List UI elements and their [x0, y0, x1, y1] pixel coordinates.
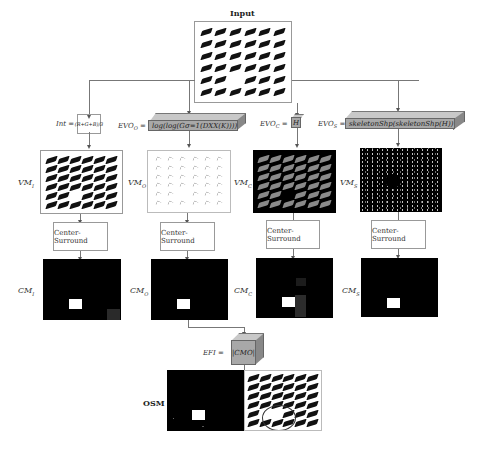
vm-i-image: [40, 150, 123, 214]
evo-c-label: EVOC =: [260, 120, 288, 129]
osm-label: OSM: [143, 398, 165, 408]
texture-element: [192, 156, 198, 162]
texture-element: [269, 182, 282, 191]
texture-element: [81, 200, 94, 209]
evo-o-formula: log(log(Gσ=1(DXX(K)))): [152, 122, 237, 130]
texture-element: [217, 165, 223, 171]
cm-o-down: [188, 320, 189, 327]
texture-element: [244, 40, 257, 49]
texture-element: [192, 200, 198, 206]
center-surround-o: Center-Surround: [160, 222, 215, 251]
arrow-icon: [187, 144, 191, 148]
texture-element: [229, 88, 242, 97]
drop-c-top: [297, 80, 298, 81]
texture-element: [167, 192, 173, 198]
evo-o-label: EVOO =: [118, 122, 146, 131]
texture-element: [215, 28, 228, 37]
texture-element: [200, 88, 213, 97]
texture-element: [283, 374, 296, 383]
texture-element: [45, 164, 58, 173]
texture-element: [257, 173, 270, 182]
texture-element: [282, 154, 295, 163]
texture-element: [93, 182, 106, 191]
texture-element: [319, 200, 332, 209]
texture-element: [45, 191, 58, 200]
texture-element: [217, 183, 223, 189]
texture-element: [180, 165, 186, 171]
texture-element: [204, 192, 210, 198]
texture-element: [307, 154, 320, 163]
texture-element: [273, 64, 286, 73]
texture-element: [282, 163, 295, 172]
texture-element: [248, 409, 261, 418]
texture-element: [282, 200, 295, 209]
texture-element: [215, 64, 228, 73]
texture-element: [269, 163, 282, 172]
texture-element: [45, 173, 58, 182]
texture-element: [294, 418, 307, 427]
connector-left: [89, 80, 195, 81]
texture-element: [155, 200, 161, 206]
texture-element: [259, 64, 272, 73]
texture-element: [167, 156, 173, 162]
texture-element: [259, 40, 272, 49]
texture-element: [57, 191, 70, 200]
vm-c-image: [253, 150, 336, 213]
texture-element: [204, 165, 210, 171]
drop-o: [189, 80, 190, 113]
texture-element: [192, 183, 198, 189]
texture-element: [81, 155, 94, 164]
texture-element: [248, 401, 261, 410]
texture-element: [167, 165, 173, 171]
texture-element: [259, 28, 272, 37]
arrow-icon: [396, 143, 400, 147]
arrow-icon: [295, 144, 299, 148]
noise-dot: [173, 418, 174, 419]
center-surround-label: Center-Surround: [54, 229, 107, 245]
input-image: [194, 21, 292, 103]
texture-element: [319, 173, 332, 182]
texture-element: [155, 192, 161, 198]
texture-element: [273, 40, 286, 49]
texture-element: [93, 173, 106, 182]
texture-element: [294, 182, 307, 191]
cm-i-label: CMI: [18, 286, 34, 297]
texture-element: [306, 418, 319, 427]
texture-element: [192, 174, 198, 180]
center-surround-c: Center-Surround: [266, 220, 320, 249]
texture-element: [204, 156, 210, 162]
osm-result-image: [244, 370, 322, 431]
texture-element: [217, 156, 223, 162]
center-surround-i: Center-Surround: [53, 222, 108, 251]
connector-right: [292, 80, 419, 81]
texture-element: [106, 191, 119, 200]
texture-element: [106, 164, 119, 173]
cm-c-image: [256, 258, 333, 318]
texture-element: [192, 192, 198, 198]
texture-element: [180, 200, 186, 206]
vm-o-image: [147, 150, 231, 213]
texture-element: [259, 52, 272, 61]
texture-element: [69, 182, 82, 191]
int-label: Int =: [56, 120, 74, 128]
input-title: Input: [230, 8, 255, 18]
texture-element: [200, 64, 213, 73]
texture-element: [215, 88, 228, 97]
texture-element: [294, 409, 307, 418]
texture-element: [155, 165, 161, 171]
evo-o-formula-box: log(log(Gσ=1(DXX(K)))): [148, 120, 238, 131]
texture-element: [229, 28, 242, 37]
texture-element: [204, 183, 210, 189]
detection-circle: [262, 405, 296, 431]
salient-region: [282, 297, 295, 307]
texture-element: [307, 163, 320, 172]
o-to-vm: [189, 131, 190, 145]
texture-element: [81, 173, 94, 182]
center-surround-label: Center-Surround: [161, 229, 214, 245]
texture-element: [269, 200, 282, 209]
efi-formula: |CMO|: [232, 349, 255, 357]
texture-element: [273, 28, 286, 37]
vm-c-label: VMC: [234, 178, 252, 189]
center-surround-s: Center-Surround: [371, 220, 426, 249]
texture-element: [269, 154, 282, 163]
